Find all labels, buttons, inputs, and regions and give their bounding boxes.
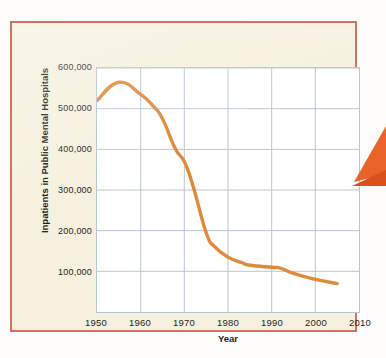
callout-arrow-icon xyxy=(352,126,386,198)
x-axis-tick-label: 1950 xyxy=(73,317,119,328)
x-axis-tick-label: 1970 xyxy=(161,317,207,328)
x-axis-tick-label: 1990 xyxy=(249,317,295,328)
x-axis-tick-label: 2000 xyxy=(293,317,339,328)
chart-panel: 100,000200,000300,000400,000500,000600,0… xyxy=(10,21,357,332)
plot-area xyxy=(96,67,360,313)
x-axis-tick-label: 1960 xyxy=(117,317,163,328)
y-axis-tick-label: 100,000 xyxy=(32,267,92,277)
y-axis-tick-labels: 100,000200,000300,000400,000500,000600,0… xyxy=(24,67,92,313)
x-axis-tick-labels: 1950196019701980199020002010 xyxy=(96,317,360,333)
x-axis-title: Year xyxy=(96,333,360,344)
data-line-series xyxy=(97,68,359,312)
chart-screenshot: 100,000200,000300,000400,000500,000600,0… xyxy=(0,0,386,358)
x-axis-tick-label: 2010 xyxy=(337,317,383,328)
y-axis-title: Inpatients in Public Mental Hospitals xyxy=(39,41,50,261)
x-axis-tick-label: 1980 xyxy=(205,317,251,328)
